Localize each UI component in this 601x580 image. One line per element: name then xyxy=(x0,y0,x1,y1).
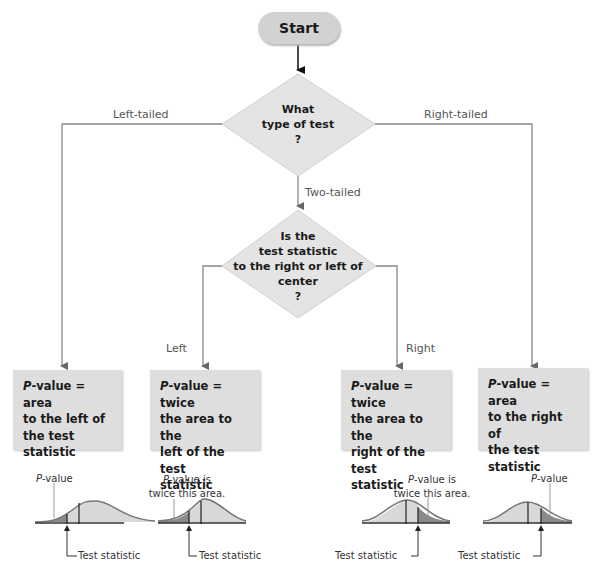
start-node: Start xyxy=(258,12,340,44)
curve-left-tailed xyxy=(35,483,155,556)
decision1-line: type of test xyxy=(238,117,358,132)
decision2-line: to the right or left of xyxy=(228,259,368,274)
box-line: the area to the xyxy=(160,411,250,444)
curve4-test-statistic-label: Test statistic xyxy=(458,550,520,561)
curve-two-tailed-right xyxy=(362,497,450,556)
branch-label-two-tailed: Two-tailed xyxy=(305,186,361,199)
decision-right-or-left: Is the test statistic to the right or le… xyxy=(228,229,368,304)
box-line: -value = twice xyxy=(351,379,413,410)
start-label: Start xyxy=(279,20,319,36)
curve3-pvalue-label: P-value is twice this area. xyxy=(388,473,476,501)
branch-label-left-tailed: Left-tailed xyxy=(113,108,169,121)
label-text: -value is xyxy=(169,474,211,485)
curve-two-tailed-left xyxy=(158,498,246,556)
decision1-line: ? xyxy=(238,132,358,147)
label-text: twice this area. xyxy=(143,487,231,501)
label-text: -value xyxy=(537,473,568,484)
curve1-test-statistic-label: Test statistic xyxy=(78,550,140,561)
result-box-right-tailed: P-value = area to the right of the test … xyxy=(478,368,588,450)
decision2-line: center xyxy=(228,274,368,289)
box-line: the area to the xyxy=(351,411,441,444)
label-text: twice this area. xyxy=(388,487,476,501)
decision2-line: Is the xyxy=(228,229,368,244)
branch-label-right-tailed: Right-tailed xyxy=(424,108,488,121)
box-line: the test xyxy=(488,442,578,459)
box-line: -value = area xyxy=(23,379,85,410)
box-line: to the right of xyxy=(488,409,578,442)
decision1-line: What xyxy=(238,102,358,117)
decision2-line: ? xyxy=(228,289,368,304)
curve2-test-statistic-label: Test statistic xyxy=(199,550,261,561)
label-text: -value is xyxy=(414,474,456,485)
box-line: statistic xyxy=(23,444,112,461)
curve4-pvalue-label: P-value xyxy=(531,473,568,484)
curve2-pvalue-label: P-value is twice this area. xyxy=(143,473,231,501)
box-line: to the left of xyxy=(23,411,112,428)
result-box-two-tailed-right: P-value = twice the area to the right of… xyxy=(341,370,451,450)
curve1-pvalue-label: P-value xyxy=(36,473,73,484)
box-line: -value = area xyxy=(488,377,550,408)
result-box-left-tailed: P-value = area to the left of the test s… xyxy=(13,370,122,450)
curve-right-tailed xyxy=(483,483,572,556)
result-box-two-tailed-left: P-value = twice the area to the left of … xyxy=(150,370,260,450)
decision2-line: test statistic xyxy=(228,244,368,259)
label-text: -value xyxy=(42,473,73,484)
branch-label-left: Left xyxy=(166,342,187,355)
branch-label-right: Right xyxy=(406,342,435,355)
curve3-test-statistic-label: Test statistic xyxy=(335,550,397,561)
box-line: -value = twice xyxy=(160,379,222,410)
box-line: the test xyxy=(23,428,112,445)
decision-type-of-test: What type of test ? xyxy=(238,102,358,147)
